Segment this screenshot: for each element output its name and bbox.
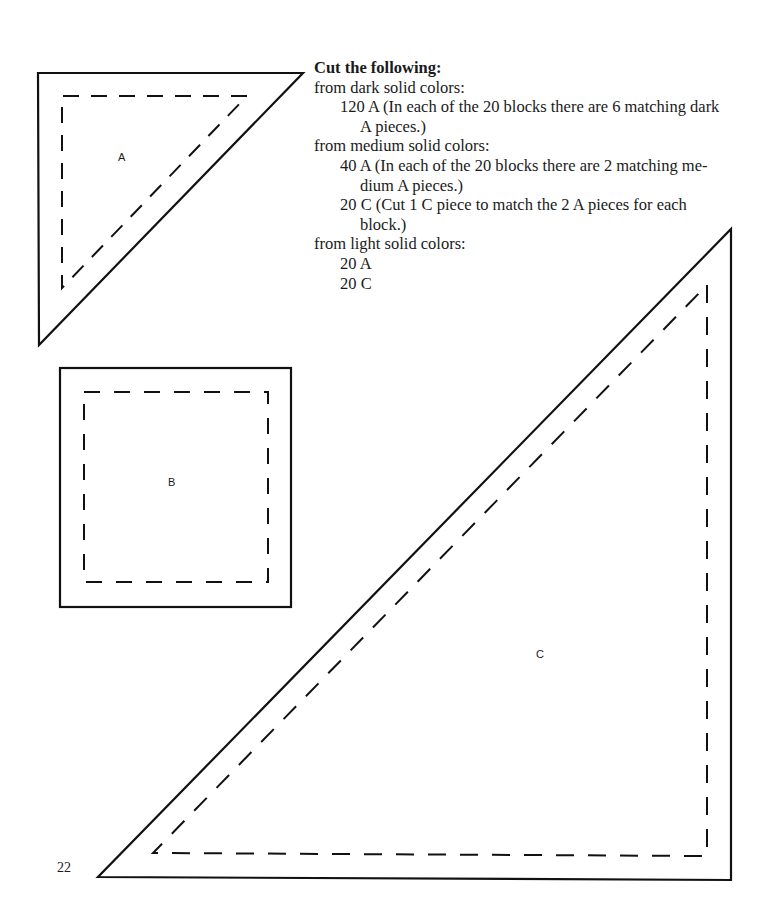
cut-item-note: dium A pieces.) [340, 176, 754, 196]
template-a: A [38, 73, 303, 345]
template-c-cut-line [98, 229, 731, 880]
template-b-seam-line [84, 392, 268, 582]
template-b-cut-line [60, 368, 291, 607]
template-c: C [98, 229, 731, 880]
cut-item-text: 20 C (Cut 1 C piece to match the 2 A pie… [340, 195, 687, 214]
cut-item-text: 20 A [340, 254, 372, 273]
cut-item-text: 20 C [340, 274, 372, 293]
template-c-label: C [536, 648, 544, 660]
cut-item: 120 A (In each of the 20 blocks there ar… [314, 97, 754, 136]
instructions-heading: Cut the following: [314, 58, 754, 78]
template-a-label: A [118, 151, 126, 163]
pattern-page: A B C Cut the following: from dark solid… [0, 0, 773, 917]
template-b-label: B [168, 476, 175, 488]
group-dark: from dark solid colors: 120 A (In each o… [314, 78, 754, 137]
cut-item: 20 C [314, 274, 754, 294]
group-label: from light solid colors: [314, 234, 754, 254]
group-medium: from medium solid colors: 40 A (In each … [314, 136, 754, 234]
cut-item-note: A pieces.) [340, 117, 754, 137]
cut-item-note: block.) [340, 215, 754, 235]
template-c-seam-line [153, 285, 707, 856]
group-label: from medium solid colors: [314, 136, 754, 156]
cut-item: 20 C (Cut 1 C piece to match the 2 A pie… [314, 195, 754, 234]
template-a-cut-line [38, 73, 303, 345]
group-light: from light solid colors: 20 A 20 C [314, 234, 754, 293]
group-label: from dark solid colors: [314, 78, 754, 98]
template-b: B [60, 368, 291, 607]
page-number: 22 [57, 860, 71, 876]
cut-item-text: 40 A (In each of the 20 blocks there are… [340, 156, 707, 175]
cut-item: 20 A [314, 254, 754, 274]
template-a-seam-line [62, 96, 247, 288]
cut-item: 40 A (In each of the 20 blocks there are… [314, 156, 754, 195]
cutting-instructions: Cut the following: from dark solid color… [314, 58, 754, 293]
cut-item-text: 120 A (In each of the 20 blocks there ar… [340, 97, 719, 116]
